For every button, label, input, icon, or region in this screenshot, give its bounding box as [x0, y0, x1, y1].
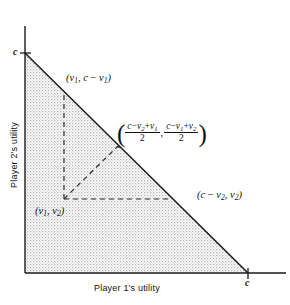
fraction-x-denominator: 2 — [125, 133, 159, 143]
fraction-x: c−v2+v12 — [125, 121, 159, 143]
x-axis-tick-label-c: c — [245, 277, 249, 288]
paren-close: ) — [239, 189, 243, 200]
x-axis-title: Player 1's utility — [94, 283, 160, 293]
paren-close: ) — [108, 72, 112, 83]
label-right-point: (c − v2, v2) — [197, 189, 242, 202]
paren-open-big: ( — [117, 120, 125, 147]
paren-close-big: ) — [198, 120, 206, 147]
fraction-y-denominator: 2 — [164, 133, 198, 143]
sub-2: 2 — [193, 125, 196, 132]
figure-container: Player 1's utility Player 2's utility c … — [0, 0, 290, 305]
y-axis-tick-label-c: c — [13, 46, 17, 57]
minus-sign: − — [205, 189, 216, 200]
label-origin-point: (v1, v2) — [35, 205, 64, 218]
minus-sign: − — [88, 72, 99, 83]
fraction-y: c−v1+v22 — [164, 121, 198, 143]
label-top-point: (v1, c − v1) — [66, 72, 111, 85]
paren-close: ) — [61, 205, 65, 216]
plot-svg — [0, 0, 290, 305]
sub-1: 1 — [154, 125, 157, 132]
fraction-y-numerator: c−v1+v2 — [164, 121, 198, 133]
y-axis-title: Player 2's utility — [9, 116, 19, 194]
label-midpoint: (c−v2+v12,c−v1+v22) — [117, 120, 207, 145]
fraction-x-numerator: c−v2+v1 — [125, 121, 159, 133]
